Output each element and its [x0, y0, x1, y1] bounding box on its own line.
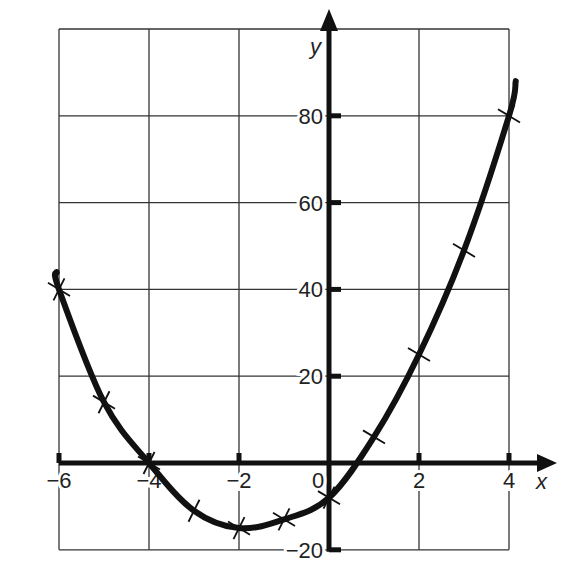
y-tick-label: 40: [299, 277, 323, 302]
x-tick-label: −6: [46, 468, 71, 493]
y-tick-label: 20: [299, 364, 323, 389]
y-tick-label: −20: [286, 538, 323, 563]
grid: [59, 29, 509, 550]
y-tick-label: 60: [299, 191, 323, 216]
x-axis-label: x: [535, 469, 548, 494]
tick-labels: −6−4−2024−2020406080: [46, 104, 515, 563]
chart: −6−4−2024−2020406080 x y: [0, 0, 580, 583]
y-axis-label: y: [308, 34, 323, 59]
cross-marker-icon: [369, 426, 380, 448]
x-tick-label: 2: [413, 468, 425, 493]
x-tick-label: −2: [226, 468, 251, 493]
x-tick-label: 0: [312, 468, 324, 493]
x-tick-label: 4: [503, 468, 515, 493]
data-markers: [48, 105, 520, 539]
y-axis-arrow-icon: [320, 9, 338, 31]
y-tick-label: 80: [299, 104, 323, 129]
